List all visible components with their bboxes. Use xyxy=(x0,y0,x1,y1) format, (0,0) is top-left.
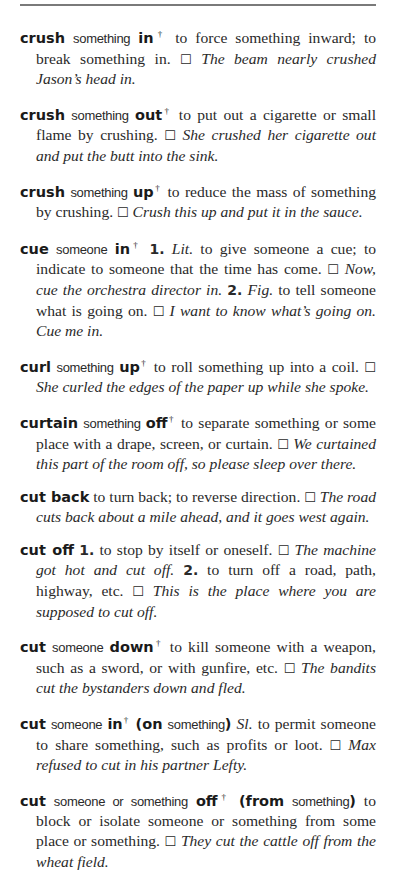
headword: cut xyxy=(20,639,46,655)
example-box-icon: ☐ xyxy=(277,437,289,452)
headword: cue xyxy=(20,241,49,257)
example-box-icon: ☐ xyxy=(132,584,144,599)
example-box-icon: ☐ xyxy=(153,304,165,319)
argument: someone xyxy=(52,640,103,655)
particle: out xyxy=(135,107,162,123)
example-box-icon: ☐ xyxy=(327,262,339,277)
particle: up xyxy=(119,359,140,375)
dagger-mark: † xyxy=(154,183,161,193)
headword: cut xyxy=(20,793,46,809)
argument: something xyxy=(83,416,140,431)
dagger-mark: † xyxy=(162,106,171,116)
headword: cut off xyxy=(20,542,74,558)
entry-crush-in: crush something in† to force something i… xyxy=(20,25,376,89)
example-box-icon: ☐ xyxy=(117,205,129,220)
dictionary-page: crush something in† to force something i… xyxy=(20,25,376,874)
example-box-icon: ☐ xyxy=(284,661,296,676)
sense-number: 2. xyxy=(183,562,198,578)
usage-label: Fig. xyxy=(248,281,274,298)
definition: to turn back; to reverse direction. xyxy=(93,488,300,505)
dagger-mark: † xyxy=(218,792,230,802)
headword: crush xyxy=(20,184,65,200)
example-box-icon: ☐ xyxy=(330,738,342,753)
optional-close: ) xyxy=(349,793,356,809)
example-box-icon: ☐ xyxy=(180,52,192,67)
particle: in xyxy=(138,30,153,46)
particle: off xyxy=(146,415,168,431)
particle: down xyxy=(110,639,154,655)
argument: someone xyxy=(51,717,102,732)
entry-crush-out: crush something out† to put out a cigare… xyxy=(20,102,376,166)
particle: off xyxy=(196,793,218,809)
optional-argument: something xyxy=(168,717,225,732)
entry-curtain-off: curtain something off† to separate somet… xyxy=(20,410,376,474)
usage-label: Lit. xyxy=(172,240,193,257)
usage-label: Sl. xyxy=(237,715,253,732)
optional-open: (from xyxy=(239,793,284,809)
dagger-mark: † xyxy=(154,29,167,39)
example: Crush this up and put it in the sauce. xyxy=(133,203,363,220)
entry-cut-off: cut off 1. to stop by itself or oneself.… xyxy=(20,540,376,621)
headword: cut xyxy=(20,716,46,732)
example-box-icon: ☐ xyxy=(164,128,176,143)
definition: to roll something up into a coil. xyxy=(154,358,359,375)
entry-cue-in: cue someone in† 1. Lit. to give someone … xyxy=(20,236,376,341)
example-box-icon: ☐ xyxy=(278,543,290,558)
particle: in xyxy=(115,241,130,257)
argument: something xyxy=(70,185,127,200)
entry-cut-in: cut someone in† (on something) Sl. to pe… xyxy=(20,711,376,775)
example: She curled the edges of the paper up whi… xyxy=(36,378,369,395)
headword: cut back xyxy=(20,489,89,505)
particle: in xyxy=(107,716,122,732)
argument: someone or something xyxy=(54,794,188,809)
headword: curtain xyxy=(20,415,78,431)
optional-argument: something xyxy=(292,794,349,809)
headword: crush xyxy=(20,30,65,46)
entry-curl-up: curl something up† to roll something up … xyxy=(20,354,376,397)
dagger-mark: † xyxy=(168,414,175,424)
entry-cut-down: cut someone down† to kill someone with a… xyxy=(20,634,376,698)
argument: someone xyxy=(56,242,107,257)
argument: something xyxy=(71,108,128,123)
dagger-mark: † xyxy=(123,715,130,725)
sense-number: 1. xyxy=(149,241,164,257)
sense-number: 1. xyxy=(79,542,94,558)
particle: up xyxy=(133,184,154,200)
headword: crush xyxy=(20,107,65,123)
example-box-icon: ☐ xyxy=(364,360,376,375)
dagger-mark: † xyxy=(154,638,163,648)
dagger-mark: † xyxy=(140,358,148,368)
entry-crush-up: crush something up† to reduce the mass o… xyxy=(20,179,376,223)
dagger-mark: † xyxy=(130,240,141,250)
example-box-icon: ☐ xyxy=(304,490,316,505)
argument: something xyxy=(73,31,130,46)
header-rule xyxy=(20,4,376,6)
argument: something xyxy=(56,360,113,375)
example-box-icon: ☐ xyxy=(165,834,177,849)
definition: to stop by itself or oneself. xyxy=(99,541,272,558)
entry-cut-back: cut back to turn back; to reverse direct… xyxy=(20,487,376,527)
optional-close: ) xyxy=(225,716,232,732)
headword: curl xyxy=(20,359,51,375)
entry-cut-off-from: cut someone or something off† (from some… xyxy=(20,788,376,871)
optional-open: (on xyxy=(136,716,163,732)
sense-number: 2. xyxy=(227,282,242,298)
